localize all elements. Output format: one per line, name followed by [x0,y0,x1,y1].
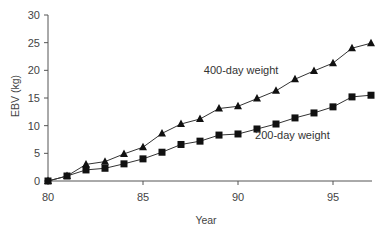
triangle-marker [272,86,280,94]
square-marker [45,178,52,185]
square-marker [159,149,166,156]
series-group [44,39,375,185]
x-tick-label: 85 [137,191,149,203]
x-tick-label: 80 [42,191,54,203]
square-marker [64,173,71,180]
square-marker [292,114,299,121]
y-tick-label: 0 [34,175,40,187]
square-marker [121,160,128,167]
x-tick-label: 95 [327,191,339,203]
square-marker [83,166,90,173]
series-400-day-weight [44,39,375,184]
square-marker [197,138,204,145]
y-axis-title: EBV (kg) [9,75,21,117]
y-tick-label: 30 [28,9,40,21]
square-marker [330,103,337,110]
x-axis-title: Year [195,214,217,226]
triangle-marker [139,143,147,151]
square-marker [102,165,109,172]
square-marker [368,92,375,99]
y-tick-label: 5 [34,147,40,159]
x-tick-label: 90 [232,191,244,203]
triangle-marker [329,59,337,67]
square-marker [178,141,185,148]
triangle-marker [158,129,166,137]
square-marker [216,132,223,139]
triangle-marker [367,39,375,47]
y-tick-label: 25 [28,37,40,49]
axes: 05101520253080859095 [28,9,372,203]
triangle-marker [196,115,204,123]
square-marker [311,109,318,116]
square-marker [273,121,280,128]
square-marker [140,155,147,162]
labels-group: EBV (kg) Year 400-day weight 200-day wei… [9,64,330,226]
y-tick-label: 20 [28,64,40,76]
series-label-200-day: 200-day weight [255,129,330,141]
square-marker [235,130,242,137]
line-chart: 05101520253080859095 EBV (kg) Year 400-d… [0,0,385,232]
y-tick-label: 10 [28,120,40,132]
series-label-400-day: 400-day weight [204,64,279,76]
square-marker [349,93,356,100]
y-tick-label: 15 [28,92,40,104]
